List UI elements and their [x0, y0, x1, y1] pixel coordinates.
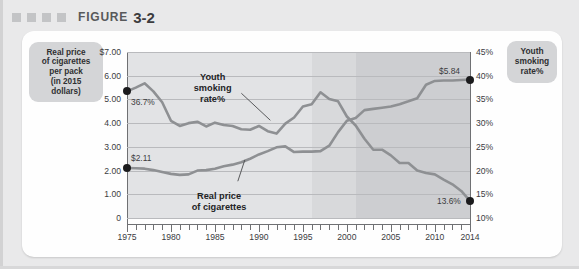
annotation-price-start: $2.11 [131, 153, 151, 163]
x-axis-label: 2000 [327, 232, 367, 242]
y-axis-right-label: 35% [476, 94, 506, 104]
y-axis-left-label: 1.00 [85, 189, 121, 199]
series-line [127, 80, 470, 175]
chart-plot-area: 01.002.003.004.005.006.00$7.00 10%15%20%… [22, 31, 562, 257]
x-axis-tick [444, 225, 445, 230]
y-axis-right-label: 15% [476, 189, 506, 199]
x-axis-tick [250, 225, 251, 230]
x-axis-tick [197, 225, 198, 230]
x-axis-label: 1995 [283, 232, 323, 242]
x-axis-label: 1985 [195, 232, 235, 242]
y-axis-right-label: 45% [476, 47, 506, 57]
x-axis-tick [180, 225, 181, 230]
x-axis-tick [259, 225, 260, 232]
data-series-layer [127, 52, 470, 218]
x-axis-tick [329, 225, 330, 230]
x-axis-tick [400, 225, 401, 230]
label-leader-line [241, 93, 270, 120]
x-axis-tick [127, 225, 128, 232]
y-axis-right-label: 20% [476, 166, 506, 176]
marker-square-icon [12, 13, 21, 22]
y-axis-right-label: 30% [476, 118, 506, 128]
x-axis-tick [320, 225, 321, 230]
x-axis-tick [136, 225, 137, 230]
marker-square-icon [57, 13, 66, 22]
x-axis-tick [470, 225, 471, 232]
x-axis-tick [215, 225, 216, 232]
x-axis-tick [452, 225, 453, 230]
x-axis-label: 2014 [450, 232, 490, 242]
x-axis-tick [312, 225, 313, 230]
annotation-price-end: $5.84 [439, 66, 460, 76]
annotation-youth-start: 36.7% [131, 97, 155, 107]
gridline [127, 218, 470, 219]
x-axis-tick [426, 225, 427, 230]
x-axis-tick [338, 225, 339, 230]
series-start-marker [123, 164, 131, 172]
x-axis-tick [347, 225, 348, 232]
figure-card: Real price of cigarettes per pack (in 20… [22, 31, 562, 257]
annotation-youth-end: 13.6% [437, 196, 461, 206]
figure-header: FIGURE 3-2 [12, 7, 155, 27]
y-axis-left-label: 6.00 [85, 71, 121, 81]
x-axis [127, 224, 471, 225]
x-axis-tick [356, 225, 357, 230]
marker-square-icon [27, 13, 36, 22]
figure-marker-squares [12, 13, 66, 22]
x-axis-tick [268, 225, 269, 230]
x-axis-tick [162, 225, 163, 230]
figure-number: 3-2 [133, 9, 155, 26]
y-axis-left-label: 5.00 [85, 94, 121, 104]
x-axis-label: 1980 [151, 232, 191, 242]
y-axis-left-label: 4.00 [85, 118, 121, 128]
x-axis-tick [461, 225, 462, 230]
series-line [127, 83, 470, 201]
x-axis-tick [435, 225, 436, 232]
series-end-marker [466, 197, 474, 205]
x-axis-tick [364, 225, 365, 230]
x-axis-tick [382, 225, 383, 230]
x-axis-tick [171, 225, 172, 232]
x-axis-tick [294, 225, 295, 230]
x-axis-tick [303, 225, 304, 232]
x-axis-tick [285, 225, 286, 230]
x-axis-tick [417, 225, 418, 230]
x-axis-tick [206, 225, 207, 230]
y-axis-left-label: $7.00 [85, 47, 121, 57]
figure-frame: FIGURE 3-2 Real price of cigarettes per … [0, 0, 579, 269]
frame-left-rule [0, 0, 3, 269]
marker-square-icon [42, 13, 51, 22]
x-axis-tick [391, 225, 392, 232]
x-axis-label: 1975 [107, 232, 147, 242]
x-axis-tick [277, 225, 278, 230]
x-axis-label: 1990 [239, 232, 279, 242]
x-axis-label: 2005 [371, 232, 411, 242]
y-axis-right-label: 10% [476, 213, 506, 223]
figure-label: FIGURE [78, 10, 128, 24]
y-axis-right-label: 40% [476, 71, 506, 81]
x-axis-tick [145, 225, 146, 230]
x-axis-tick [153, 225, 154, 230]
x-axis-label: 2010 [415, 232, 455, 242]
y-axis-left-label: 2.00 [85, 166, 121, 176]
y-axis-left-label: 3.00 [85, 142, 121, 152]
series-end-marker [466, 76, 474, 84]
x-axis-tick [241, 225, 242, 230]
x-axis-tick [233, 225, 234, 230]
x-axis-tick [373, 225, 374, 230]
x-axis-tick [224, 225, 225, 230]
y-axis-right-label: 25% [476, 142, 506, 152]
x-axis-tick [189, 225, 190, 230]
x-axis-tick [408, 225, 409, 230]
series-label-youth: Youth smoking rate% [194, 72, 232, 105]
y-axis-left-label: 0 [85, 213, 121, 223]
series-label-price: Real price of cigarettes [192, 191, 247, 213]
